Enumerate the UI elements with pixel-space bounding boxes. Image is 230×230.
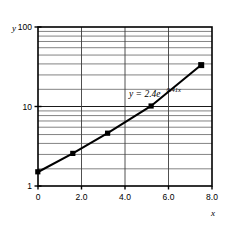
x-axis-label: x	[210, 208, 215, 218]
data-point	[105, 131, 110, 136]
x-tick-label-4: 4.0	[119, 192, 131, 202]
x-tick-label-0: 0	[36, 192, 41, 202]
y-tick-label-1: 1	[27, 181, 32, 191]
chart-background	[0, 0, 230, 230]
equation-base: y = 2.4e	[128, 89, 160, 99]
data-point	[198, 62, 204, 68]
data-point	[35, 169, 40, 174]
y-axis-label: y	[11, 23, 16, 33]
data-point	[70, 151, 75, 156]
x-tick-label-2: 2.0	[76, 192, 88, 202]
y-tick-label-100: 100	[18, 22, 32, 32]
y-tick-label-10: 10	[23, 102, 33, 112]
equation-exponent: 0.41x	[167, 86, 182, 93]
semilog-chart: 100 10 1 y 0 2.0 4.0 6.0 8.0 x y = 2.4e …	[0, 0, 230, 230]
x-tick-label-8: 8.0	[206, 192, 218, 202]
chart-canvas: 100 10 1 y 0 2.0 4.0 6.0 8.0 x y = 2.4e …	[0, 0, 230, 230]
x-tick-label-6: 6.0	[163, 192, 175, 202]
data-point	[149, 103, 154, 108]
